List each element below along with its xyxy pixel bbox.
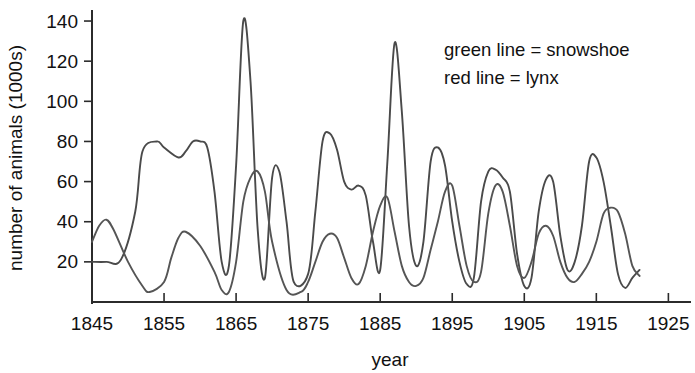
x-axis-ticks <box>92 293 668 302</box>
x-axis-tick-labels: 184518551865187518851895190519151925 <box>71 313 690 334</box>
y-tick-label-40: 40 <box>57 211 78 232</box>
y-tick-label-20: 20 <box>57 251 78 272</box>
lynx-snowshoe-population-chart: 20406080100120140 1845185518651875188518… <box>0 0 695 373</box>
x-tick-label-1915: 1915 <box>575 313 617 334</box>
x-tick-label-1905: 1905 <box>503 313 545 334</box>
x-tick-label-1855: 1855 <box>143 313 185 334</box>
y-tick-label-120: 120 <box>46 51 78 72</box>
y-tick-label-140: 140 <box>46 11 78 32</box>
x-tick-label-1895: 1895 <box>431 313 473 334</box>
y-axis-title: number of animals (1000s) <box>5 45 26 271</box>
x-tick-label-1885: 1885 <box>359 313 401 334</box>
x-tick-label-1865: 1865 <box>215 313 257 334</box>
x-tick-label-1845: 1845 <box>71 313 113 334</box>
chart-canvas: 20406080100120140 1845185518651875188518… <box>0 0 695 373</box>
y-axis-tick-labels: 20406080100120140 <box>46 11 78 273</box>
chart-legend: green line = snowshoered line = lynx <box>444 39 630 88</box>
legend-entry-snowshoe: green line = snowshoe <box>444 39 630 60</box>
y-axis-ticks <box>84 21 92 262</box>
series-line-lynx <box>92 171 640 295</box>
x-tick-label-1925: 1925 <box>647 313 689 334</box>
legend-entry-lynx: red line = lynx <box>444 67 559 88</box>
x-axis-title: year <box>372 349 410 370</box>
y-tick-label-80: 80 <box>57 131 78 152</box>
y-tick-label-60: 60 <box>57 171 78 192</box>
x-tick-label-1875: 1875 <box>287 313 329 334</box>
y-tick-label-100: 100 <box>46 91 78 112</box>
